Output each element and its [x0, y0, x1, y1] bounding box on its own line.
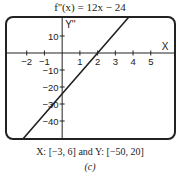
x-tick-label: 2: [95, 56, 100, 67]
calculator-frame: [6, 17, 175, 139]
axes: XY'': [7, 18, 174, 138]
window-range-label: X: [−3, 6] and Y: [−50, 20]: [0, 146, 180, 157]
y-tick-label: −20: [43, 82, 59, 93]
x-tick-label: 4: [130, 56, 135, 67]
x-tick-label: 3: [113, 56, 118, 67]
y-axis-label: Y'': [65, 19, 76, 30]
x-tick-label: 1: [77, 56, 82, 67]
y-tick-label: −10: [43, 65, 59, 76]
ticks: −2−11234510−10−20−30−40: [21, 31, 153, 127]
series-line: [9, 0, 169, 155]
figure-caption: (c): [0, 161, 180, 172]
y-tick-label: 10: [48, 31, 59, 42]
x-axis-label: X: [162, 41, 169, 52]
x-tick-label: 5: [148, 56, 153, 67]
series-group: [9, 0, 169, 155]
x-tick-label: −2: [21, 56, 32, 67]
y-tick-label: −40: [43, 116, 59, 127]
